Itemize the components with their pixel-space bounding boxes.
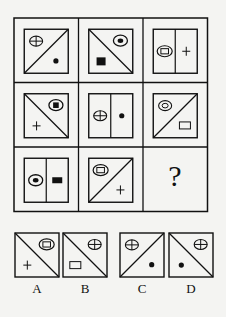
grid-cell-r1c2 — [89, 29, 133, 73]
grid-cell-r3c2 — [89, 158, 133, 202]
circle-cross-icon — [125, 240, 138, 250]
plus-icon — [23, 261, 31, 270]
circle-cross-icon — [88, 239, 101, 249]
filled-square-icon — [97, 57, 106, 65]
grid-cell-r3c1 — [24, 158, 68, 202]
grid-cell-r2c2 — [89, 94, 133, 138]
circle-cross-icon — [94, 111, 107, 121]
option-c[interactable] — [120, 233, 164, 277]
ellipse-rect-icon — [39, 239, 54, 250]
ellipse-ring-icon — [159, 101, 172, 111]
ellipse-square-icon — [49, 100, 63, 111]
option-label-d: D — [169, 281, 213, 297]
grid-cell-r2c3 — [153, 94, 197, 138]
rect-icon — [179, 122, 190, 129]
option-a[interactable] — [15, 233, 59, 277]
option-label-c: C — [120, 281, 164, 297]
option-d[interactable] — [169, 233, 213, 277]
option-label-b: B — [63, 281, 107, 297]
plus-icon — [182, 47, 190, 56]
question-mark: ? — [143, 159, 207, 193]
plus-icon — [116, 185, 124, 194]
ellipse-dot-icon — [113, 35, 127, 46]
ellipse-rect-icon — [157, 46, 172, 57]
rect-icon — [70, 262, 81, 269]
circle-cross-icon — [194, 239, 207, 249]
grid-cell-r2c1 — [24, 94, 68, 138]
dot-icon — [53, 58, 58, 63]
dot-icon — [119, 113, 124, 118]
plus-icon — [33, 121, 41, 130]
circle-cross-icon — [30, 36, 43, 46]
ellipse-rect-icon — [93, 165, 108, 176]
grid-cell-r1c1 — [24, 29, 68, 73]
grid-cell-r1c3 — [153, 29, 197, 73]
dot-icon — [149, 262, 154, 267]
dot-icon — [179, 263, 184, 268]
filled-rect-icon — [52, 177, 62, 183]
option-b[interactable] — [63, 233, 107, 277]
ellipse-dot-icon — [29, 175, 43, 186]
option-label-a: A — [15, 281, 59, 297]
